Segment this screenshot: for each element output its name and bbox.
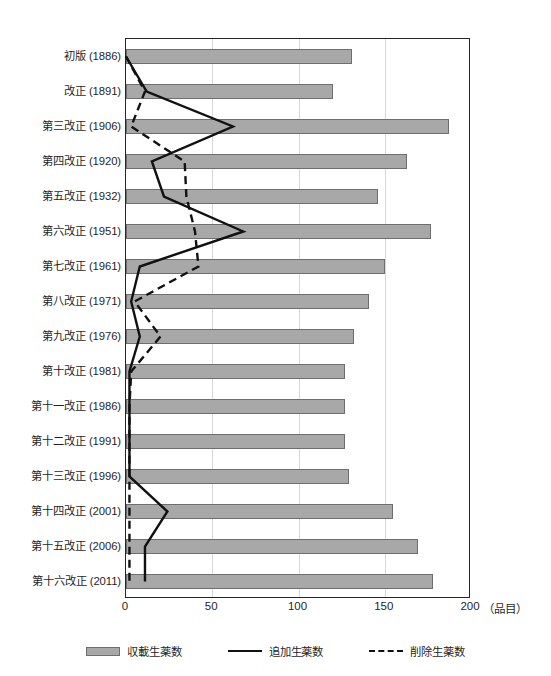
y-axis-label: 第十三改正 (1996)	[0, 470, 121, 482]
x-axis-tick-label: 200	[460, 600, 479, 612]
line-removed-series	[126, 57, 198, 582]
x-axis-tick-label: 0	[122, 600, 128, 612]
y-axis-label: 第十二改正 (1991)	[0, 435, 121, 447]
bar-swatch-icon	[86, 647, 120, 656]
y-axis-label: 第五改正 (1932)	[0, 190, 121, 202]
y-axis-label: 第八改正 (1971)	[0, 295, 121, 307]
legend-item-bars: 収載生薬数	[86, 643, 182, 659]
x-axis-ticks: 050100150200（品目）	[0, 600, 551, 618]
y-axis-label: 初版 (1886)	[0, 50, 121, 62]
y-axis-labels: 初版 (1886)改正 (1891)第三改正 (1906)第四改正 (1920)…	[0, 38, 121, 598]
legend-item-removed: 削除生薬数	[369, 643, 465, 659]
line-series-layer	[126, 39, 471, 599]
y-axis-label: 第十一改正 (1986)	[0, 400, 121, 412]
dashed-line-icon	[369, 650, 403, 652]
y-axis-label: 改正 (1891)	[0, 85, 121, 97]
x-axis-unit-label: （品目）	[483, 600, 527, 616]
plot-area	[125, 38, 470, 598]
y-axis-label: 第七改正 (1961)	[0, 260, 121, 272]
y-axis-label: 第十四改正 (2001)	[0, 505, 121, 517]
y-axis-label: 第十改正 (1981)	[0, 365, 121, 377]
legend-label-bars: 収載生薬数	[127, 643, 182, 659]
y-axis-label: 第十六改正 (2011)	[0, 575, 121, 587]
x-axis-tick-label: 100	[288, 600, 307, 612]
y-axis-label: 第四改正 (1920)	[0, 155, 121, 167]
chart-root: 初版 (1886)改正 (1891)第三改正 (1906)第四改正 (1920)…	[0, 0, 551, 676]
y-axis-label: 第十五改正 (2006)	[0, 540, 121, 552]
solid-line-icon	[228, 650, 262, 652]
y-axis-label: 第九改正 (1976)	[0, 330, 121, 342]
x-axis-tick-label: 150	[374, 600, 393, 612]
legend-label-removed: 削除生薬数	[410, 643, 465, 659]
chart-legend: 収載生薬数 追加生薬数 削除生薬数	[0, 641, 551, 661]
y-axis-label: 第六改正 (1951)	[0, 225, 121, 237]
legend-label-added: 追加生薬数	[269, 643, 324, 659]
y-axis-label: 第三改正 (1906)	[0, 120, 121, 132]
x-axis-tick-label: 50	[205, 600, 218, 612]
legend-item-added: 追加生薬数	[228, 643, 324, 659]
